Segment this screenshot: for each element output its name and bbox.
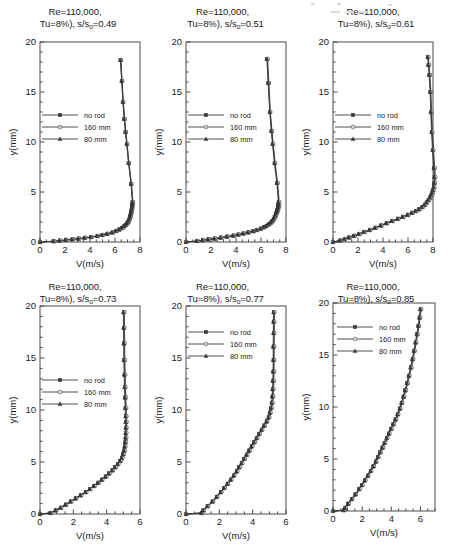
series-line-no-rod <box>333 57 435 242</box>
y-tick-label: 5 <box>31 456 36 467</box>
x-axis-label: V(m/s) <box>222 530 250 541</box>
title-s-ratio: =0.61 <box>391 18 415 29</box>
x-axis-label: V(m/s) <box>222 258 250 269</box>
y-tick-label: 0 <box>31 236 36 247</box>
x-tick-label: 4 <box>380 244 385 255</box>
y-tick-label: 15 <box>171 86 182 97</box>
x-tick-label: 2 <box>62 244 67 255</box>
marker-filled-square <box>204 330 207 333</box>
x-tick-label: 6 <box>258 244 263 255</box>
title-prefix: Tu=8%), s/s <box>187 18 237 29</box>
y-axis-label: y(mm) <box>153 397 164 424</box>
x-tick-label: 4 <box>389 513 394 524</box>
title-line-2: Tu=8%), s/so=0.51 <box>150 18 295 33</box>
title-line-2: Tu=8%), s/so=0.77 <box>150 293 295 308</box>
marker-open-circle <box>353 337 357 341</box>
y-tick-label: 0 <box>324 505 329 516</box>
series-line-80-mm <box>40 60 132 242</box>
y-axis-label: y(mm) <box>7 129 18 156</box>
y-tick-label: 10 <box>318 401 329 412</box>
panel-1: Re=110,000,Tu=8%), s/so=0.49024680510152… <box>0 0 150 275</box>
legend-label-80-mm: 80 mm <box>230 135 253 144</box>
legend-label-80-mm: 80 mm <box>377 135 400 144</box>
title-line-1: Re=110,000, <box>0 6 150 18</box>
x-tick-label: 6 <box>137 516 142 527</box>
legend-label-160-mm: 160 mm <box>230 340 257 349</box>
x-tick-label: 0 <box>37 516 42 527</box>
y-tick-label: 10 <box>25 136 36 147</box>
panel-4: Re=110,000,Tu=8%), s/so=0.73024605101520… <box>0 275 150 550</box>
series-line-80-mm <box>40 312 126 514</box>
legend-label-no-rod: no rod <box>379 323 400 332</box>
x-tick-label: 0 <box>37 244 42 255</box>
y-tick-label: 10 <box>171 136 182 147</box>
y-tick-label: 5 <box>31 186 36 197</box>
y-tick-label: 10 <box>318 136 329 147</box>
legend-label-no-rod: no rod <box>84 111 105 120</box>
series-line-160-mm <box>186 59 279 242</box>
legend-label-80-mm: 80 mm <box>230 352 253 361</box>
marker-open-circle <box>351 125 355 129</box>
x-tick-label: 6 <box>112 244 117 255</box>
y-tick-label: 0 <box>177 236 182 247</box>
title-s-ratio: =0.85 <box>391 293 415 304</box>
y-tick-label: 20 <box>25 36 36 47</box>
x-tick-label: 0 <box>183 244 188 255</box>
panel-6-title: Re=110,000,Tu=8%), s/so=0.85 <box>295 281 451 307</box>
panel-4-plot: 024605101520V(m/s)y(mm)no rod160 mm80 mm <box>0 275 150 550</box>
marker-filled-square <box>351 113 354 116</box>
title-prefix: Tu=8%), s/s <box>187 293 237 304</box>
title-line-2: Tu=8%), s/so=0.85 <box>295 293 451 308</box>
series-line-no-rod <box>40 312 126 514</box>
y-tick-label: 5 <box>324 186 329 197</box>
y-tick-label: 5 <box>177 186 182 197</box>
x-tick-label: 2 <box>359 513 364 524</box>
series-line-160-mm <box>40 312 127 514</box>
marker-open-circle <box>58 125 62 129</box>
y-tick-label: 10 <box>171 404 182 415</box>
figure-panel-grid: Re=110,000,Tu=8%), s/so=0.49024680510152… <box>0 0 451 550</box>
legend-label-160-mm: 160 mm <box>84 388 111 397</box>
x-tick-label: 4 <box>104 516 109 527</box>
y-tick-label: 5 <box>177 456 182 467</box>
legend-label-160-mm: 160 mm <box>379 335 406 344</box>
x-tick-label: 4 <box>250 516 255 527</box>
panel-4-title: Re=110,000,Tu=8%), s/so=0.73 <box>0 281 150 307</box>
panel-1-plot: 0246805101520V(m/s)y(mm)no rod160 mm80 m… <box>0 0 150 275</box>
x-axis-label: V(m/s) <box>370 527 398 538</box>
y-tick-label: 0 <box>324 236 329 247</box>
legend-label-no-rod: no rod <box>84 376 105 385</box>
panel-3-plot: 0246805101520V(m/s)y(mm)no rod160 mm80 m… <box>295 0 451 275</box>
title-line-1: Re=110,000, <box>295 281 451 293</box>
panel-5: Re=110,000,Tu=8%), s/so=0.77024605101520… <box>150 275 295 550</box>
panel-3: Re=110,000,Tu=8%), s/so=0.61024680510152… <box>295 0 451 275</box>
x-tick-label: 0 <box>330 244 335 255</box>
title-line-2: Tu=8%), s/so=0.73 <box>0 293 150 308</box>
title-prefix: Tu=8%), s/s <box>40 293 90 304</box>
y-tick-label: 0 <box>31 508 36 519</box>
marker-filled-square <box>58 378 61 381</box>
y-tick-label: 15 <box>25 86 36 97</box>
panel-2-title: Re=110,000,Tu=8%), s/so=0.51 <box>150 6 295 32</box>
title-line-2: Tu=8%), s/so=0.61 <box>295 18 451 33</box>
panel-5-plot: 024605101520V(m/s)y(mm)no rod160 mm80 mm <box>150 275 295 550</box>
x-axis-label: V(m/s) <box>76 530 104 541</box>
marker-filled-square <box>204 113 207 116</box>
marker-filled-square <box>353 325 356 328</box>
y-axis-label: y(mm) <box>300 129 311 156</box>
title-prefix: Tu=8%), s/s <box>40 18 90 29</box>
title-line-1: Re=110,000, <box>0 281 150 293</box>
legend-label-160-mm: 160 mm <box>377 123 404 132</box>
title-s-ratio: =0.77 <box>240 293 264 304</box>
x-tick-label: 4 <box>233 244 238 255</box>
panel-5-title: Re=110,000,Tu=8%), s/so=0.77 <box>150 281 295 307</box>
legend-label-80-mm: 80 mm <box>84 400 107 409</box>
series-line-160-mm <box>333 309 421 511</box>
series-line-160-mm <box>333 57 435 242</box>
panel-6: Re=110,000,Tu=8%), s/so=0.85024605101520… <box>295 275 451 550</box>
marker-open-circle <box>204 342 208 346</box>
x-tick-label: 6 <box>405 244 410 255</box>
x-tick-label: 2 <box>208 244 213 255</box>
y-tick-label: 15 <box>25 352 36 363</box>
legend-label-80-mm: 80 mm <box>84 135 107 144</box>
